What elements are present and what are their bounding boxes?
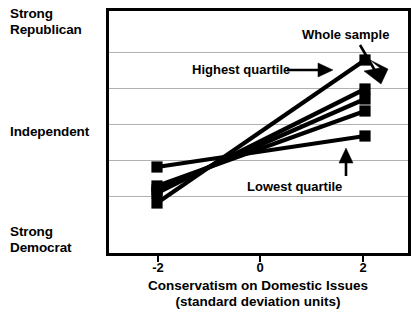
x-tick-label-zero: 0 (245, 260, 275, 275)
annotation-lowest-quartile: Lowest quartile (247, 179, 342, 194)
chart-figure: Strong Republican Independent Strong Dem… (0, 0, 417, 317)
x-tick-label-minus2: -2 (143, 260, 173, 275)
series-lowest-quartile (154, 133, 369, 171)
lowest-quartile-arrow (339, 148, 353, 176)
x-tick-label-two: 2 (348, 260, 378, 275)
annotation-highest-quartile: Highest quartile (192, 62, 290, 77)
annotation-whole-sample: Whole sample (302, 27, 389, 42)
x-axis-title-units: (standard deviation units) (106, 294, 410, 310)
x-axis-title: Conservatism on Domestic Issues (106, 278, 410, 294)
highest-quartile-arrow (287, 63, 333, 77)
series-second-quartile (154, 108, 369, 190)
